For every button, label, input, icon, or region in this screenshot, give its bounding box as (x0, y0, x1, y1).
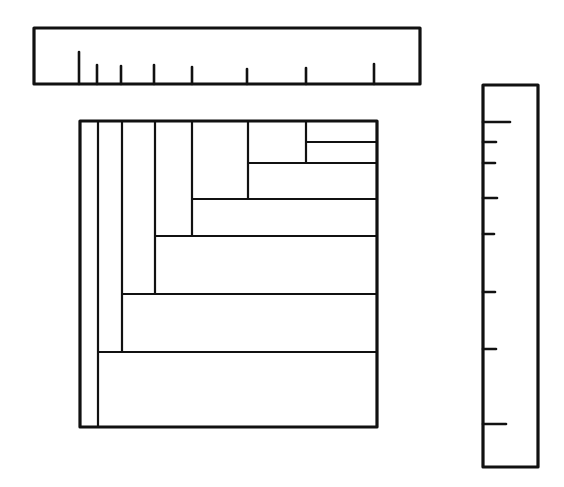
square-frame (80, 121, 377, 427)
side-ruler (483, 85, 538, 467)
top-ruler-frame (34, 28, 420, 84)
diagram-canvas (0, 0, 564, 487)
top-ruler (34, 28, 420, 84)
partitioned-square (80, 121, 377, 427)
